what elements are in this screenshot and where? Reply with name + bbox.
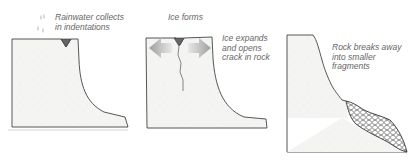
stage-2-top-label: Ice forms	[168, 13, 203, 23]
stage-2-label: Ice expands and opens crack in rock	[222, 34, 270, 63]
stage-3-label: Rock breaks away into smaller fragments	[332, 43, 401, 72]
freeze-thaw-diagram: Rainwater collects in indentations Ice f…	[0, 0, 414, 162]
stage-1-label: Rainwater collects in indentations	[55, 13, 124, 32]
raindrops-icon	[38, 13, 45, 33]
stage-1-rock	[8, 39, 128, 130]
